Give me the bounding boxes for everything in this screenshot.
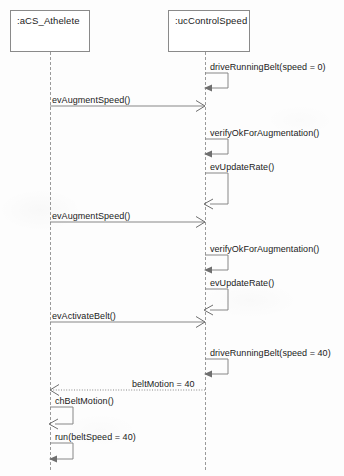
message-label-1: driveRunningBelt(speed = 0)	[210, 62, 326, 72]
lifeline-label: :ucControlSpeed	[175, 15, 247, 26]
message-label-12: run(beltSpeed = 40)	[55, 432, 136, 442]
sequence-diagram-canvas: :aCS_Athelete:ucControlSpeed driveRunnin…	[0, 0, 344, 476]
message-label-2: evAugmentSpeed()	[52, 95, 130, 105]
message-label-9: driveRunningBelt(speed = 40)	[210, 348, 331, 358]
lifeline-head-control_speed[interactable]: :ucControlSpeed	[168, 10, 250, 52]
lifeline-label: :aCS_Athelete	[17, 15, 80, 26]
message-label-6: verifyOkForAugmentation()	[210, 244, 319, 254]
message-label-5: evAugmentSpeed()	[52, 211, 130, 221]
lifeline-head-athlete[interactable]: :aCS_Athelete	[10, 10, 90, 52]
self-message-4[interactable]	[197, 165, 236, 212]
message-label-8: evActivateBelt()	[52, 311, 116, 321]
message-label-3: verifyOkForAugmentation()	[210, 128, 319, 138]
message-label-11: chBeltMotion()	[55, 396, 114, 406]
message-label-7: evUpdateRate()	[210, 278, 274, 288]
message-label-10: beltMotion = 40	[132, 379, 195, 389]
message-label-4: evUpdateRate()	[210, 162, 274, 172]
